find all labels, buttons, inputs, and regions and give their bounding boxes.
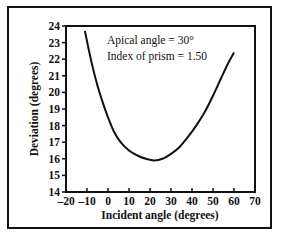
- y-tick-label: 15: [49, 169, 61, 181]
- y-tick-label: 20: [49, 86, 61, 98]
- annotation-apical-angle: Apical angle = 30°: [107, 34, 194, 47]
- y-axis-ticks: 1415161718192021222324: [49, 20, 67, 198]
- y-tick-label: 24: [49, 20, 61, 32]
- annotation-index-of-prism: Index of prism = 1.50: [107, 50, 207, 63]
- y-tick-label: 19: [49, 103, 61, 115]
- x-tick-label: –10: [77, 195, 96, 207]
- y-tick-label: 18: [49, 120, 61, 132]
- y-tick-label: 22: [49, 53, 61, 65]
- x-tick-label: 60: [228, 195, 240, 207]
- y-tick-label: 17: [49, 136, 61, 148]
- y-tick-label: 23: [49, 37, 61, 49]
- chart-svg: 1415161718192021222324 –20–1001020304050…: [0, 0, 284, 243]
- x-tick-label: 40: [186, 195, 198, 207]
- x-tick-label: 70: [249, 195, 261, 207]
- x-axis-label: Incident angle (degrees): [101, 209, 219, 222]
- y-tick-label: 16: [49, 153, 61, 165]
- y-axis-label: Deviation (degrees): [28, 62, 41, 157]
- x-axis-ticks: –20–10010203040506070: [56, 188, 261, 207]
- x-tick-label: 20: [144, 195, 156, 207]
- x-tick-label: 10: [123, 195, 135, 207]
- x-tick-label: –20: [56, 195, 75, 207]
- x-tick-label: 30: [165, 195, 177, 207]
- y-tick-label: 21: [49, 70, 61, 82]
- x-tick-label: 0: [105, 195, 111, 207]
- x-tick-label: 50: [207, 195, 219, 207]
